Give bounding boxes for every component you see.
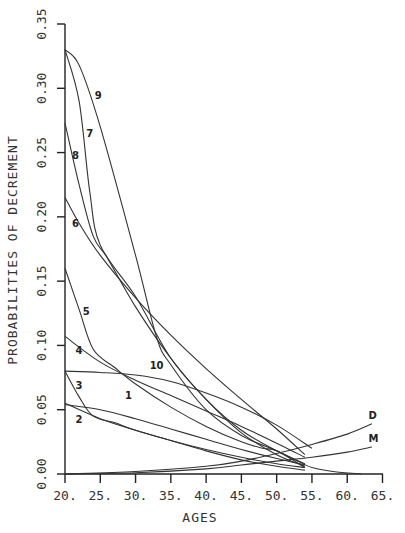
curve-label-8: 8 <box>72 150 79 161</box>
curve-2 <box>65 403 305 467</box>
x-tick-label: 65. <box>371 488 394 503</box>
curve-label-m: M <box>368 433 378 444</box>
x-tick-label: 40. <box>194 488 217 503</box>
curves <box>65 50 372 474</box>
x-tick-label: 60. <box>335 488 358 503</box>
curve-4 <box>65 336 305 457</box>
y-axis-title: PROBABILITIES OF DECREMENT <box>5 135 20 365</box>
curve-label-5: 5 <box>83 306 90 317</box>
y-tick-label: 0.15 <box>34 265 49 296</box>
decrement-chart: 0.000.050.100.150.200.250.300.35 20.25.3… <box>0 0 405 533</box>
curve-label-4: 4 <box>76 345 83 356</box>
axes <box>65 24 383 474</box>
y-tick-label: 0.20 <box>34 201 49 232</box>
curve-labels: 12345678910DM <box>72 90 378 444</box>
curve-1 <box>65 405 305 465</box>
y-tick-label: 0.25 <box>34 137 49 168</box>
x-tick-label: 25. <box>89 488 112 503</box>
curve-label-7: 7 <box>86 128 93 139</box>
curve-label-2: 2 <box>76 414 83 425</box>
curve-label-10: 10 <box>150 360 164 371</box>
curve-label-d: D <box>368 410 376 421</box>
x-tick-label: 30. <box>124 488 147 503</box>
y-tick-label: 0.30 <box>34 73 49 104</box>
curve-d <box>65 424 372 474</box>
x-tick-label: 20. <box>53 488 76 503</box>
curve-label-9: 9 <box>95 90 102 101</box>
y-ticks: 0.000.050.100.150.200.250.300.35 <box>34 8 65 489</box>
x-tick-label: 55. <box>300 488 323 503</box>
curve-7 <box>65 50 305 467</box>
x-tick-label: 45. <box>230 488 253 503</box>
curve-6 <box>65 198 305 455</box>
curve-5 <box>65 268 305 467</box>
curve-label-1: 1 <box>125 390 132 401</box>
y-tick-label: 0.00 <box>34 458 49 489</box>
curve-label-3: 3 <box>76 380 83 391</box>
x-tick-label: 35. <box>159 488 182 503</box>
curve-label-6: 6 <box>72 218 79 229</box>
y-tick-label: 0.10 <box>34 330 49 361</box>
y-tick-label: 0.35 <box>34 8 49 39</box>
curve-8 <box>65 123 305 464</box>
y-tick-label: 0.05 <box>34 394 49 425</box>
x-axis-title: AGES <box>182 510 217 525</box>
x-ticks: 20.25.30.35.40.45.50.55.60.65. <box>53 474 394 503</box>
x-tick-label: 50. <box>265 488 288 503</box>
